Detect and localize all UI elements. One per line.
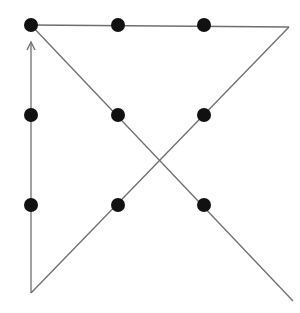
dot-r0-c2 [197, 18, 211, 32]
solution-lines [31, 25, 293, 301]
dot-r0-c0 [24, 18, 38, 32]
dot-r1-c1 [111, 108, 125, 122]
dot-r1-c2 [197, 108, 211, 122]
dot-r2-c2 [197, 198, 211, 212]
dot-r1-c0 [24, 108, 38, 122]
diagonal-segment [31, 25, 293, 301]
dot-r2-c0 [24, 198, 38, 212]
nine-dots-diagram [0, 0, 300, 313]
dot-r0-c1 [111, 18, 125, 32]
diagram-canvas [0, 0, 300, 313]
dot-r2-c1 [111, 198, 125, 212]
solution-segment-1 [31, 25, 289, 27]
